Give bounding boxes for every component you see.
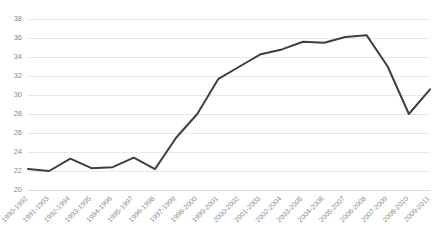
- line-chart: 20222426283032343638 1990-19921991-19931…: [0, 0, 439, 249]
- y-axis-tick-label: 30: [14, 90, 22, 99]
- chart-plot-area: 20222426283032343638 1990-19921991-19931…: [0, 0, 439, 249]
- data-series-group: [28, 35, 430, 171]
- y-axis-tick-label: 28: [14, 109, 22, 118]
- y-axis-tick-label: 22: [14, 166, 22, 175]
- y-axis-tick-label: 36: [14, 33, 22, 42]
- gridlines: [28, 20, 430, 191]
- y-axis-tick-label: 20: [14, 185, 22, 194]
- x-axis-tick-labels: 1990-19921991-19931992-19941993-19951994…: [0, 195, 431, 224]
- y-axis-tick-label: 26: [14, 128, 22, 137]
- y-axis-tick-label: 24: [14, 147, 22, 156]
- series-line: [28, 35, 430, 171]
- y-axis-tick-label: 34: [14, 52, 22, 61]
- y-axis-tick-label: 32: [14, 71, 22, 80]
- y-axis-tick-label: 38: [14, 14, 22, 23]
- y-axis-tick-labels: 20222426283032343638: [14, 14, 22, 194]
